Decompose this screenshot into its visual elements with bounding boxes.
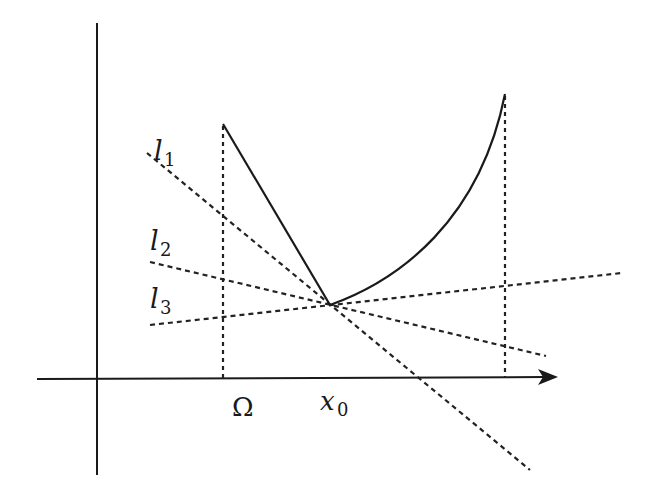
label-l1-sub: 1	[164, 149, 175, 170]
line-l3	[150, 273, 622, 325]
line-l2	[150, 262, 546, 356]
label-l3: l 3	[150, 283, 171, 318]
label-l2: l 2	[150, 225, 171, 260]
diagram-canvas: l 1 l 2 l 3 Ω x 0	[0, 0, 650, 496]
label-l3-main: l	[150, 283, 159, 314]
line-l1	[147, 153, 530, 470]
label-l3-sub: 3	[160, 297, 171, 318]
label-x0-sub: 0	[337, 399, 348, 420]
label-x0-main: x	[320, 386, 335, 416]
label-x0: x 0	[320, 386, 348, 420]
function-left-segment	[223, 124, 330, 305]
label-l2-sub: 2	[160, 239, 171, 260]
x-axis	[37, 377, 545, 379]
function-right-curve	[330, 94, 505, 305]
label-l2-main: l	[150, 225, 159, 256]
label-l1: l 1	[154, 135, 175, 170]
label-l1-main: l	[154, 135, 163, 166]
label-omega: Ω	[232, 392, 254, 422]
